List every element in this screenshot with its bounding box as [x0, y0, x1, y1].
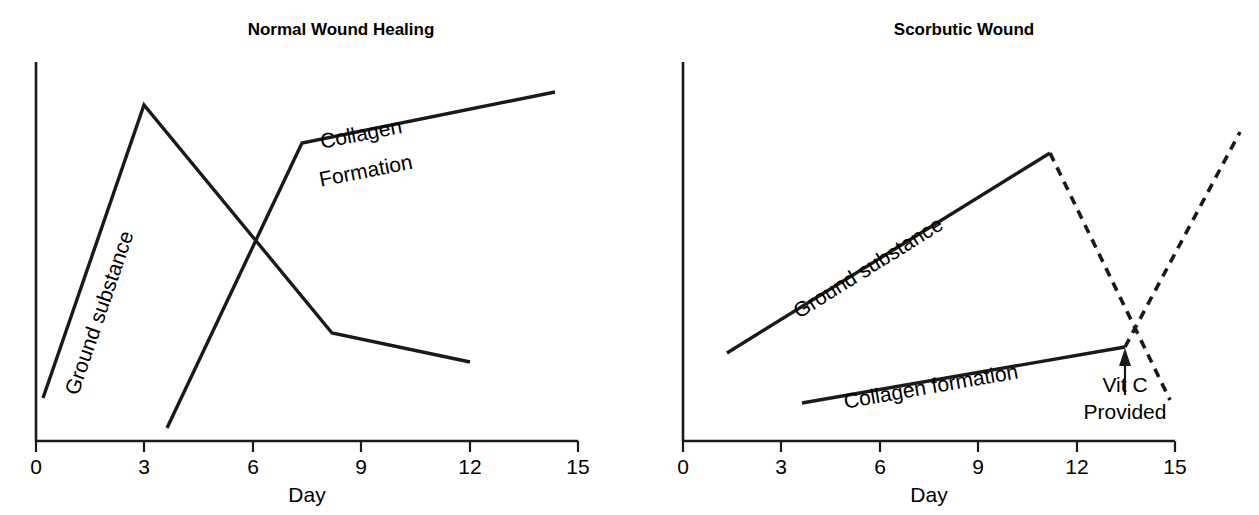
panel-normal-wound-healing: Normal Wound Healing 0 3 6 9 12 15 Day	[0, 0, 630, 515]
x-tick-label-15: 15	[548, 455, 608, 479]
vit-c-annotation-line2: Provided	[1061, 399, 1189, 426]
x-tick-label-0: 0	[653, 455, 713, 479]
x-tick-label-12: 12	[1047, 455, 1107, 479]
x-axis-title: Day	[247, 483, 367, 507]
vit-c-annotation-line1: Vit C	[1061, 372, 1189, 399]
x-tick-label-9: 9	[331, 455, 391, 479]
curve-ground-substance-dashed	[1050, 153, 1170, 400]
curve-collagen-formation-dashed	[1125, 132, 1240, 347]
x-tick-label-3: 3	[114, 455, 174, 479]
x-tick-label-15: 15	[1145, 455, 1205, 479]
plot-area-normal	[0, 0, 630, 515]
x-tick-label-9: 9	[948, 455, 1008, 479]
x-axis-title: Day	[869, 483, 989, 507]
x-tick-label-6: 6	[850, 455, 910, 479]
wound-healing-figure: Normal Wound Healing 0 3 6 9 12 15 Day	[0, 0, 1259, 515]
vit-c-annotation: Vit C Provided	[1061, 372, 1189, 426]
x-tick-label-0: 0	[6, 455, 66, 479]
plot-area-scorbutic	[629, 0, 1259, 515]
x-tick-label-12: 12	[440, 455, 500, 479]
panel-scorbutic-wound: Scorbutic Wound 0	[629, 0, 1259, 515]
x-tick-label-3: 3	[751, 455, 811, 479]
vit-c-arrow-head	[1119, 348, 1131, 366]
x-tick-label-6: 6	[223, 455, 283, 479]
